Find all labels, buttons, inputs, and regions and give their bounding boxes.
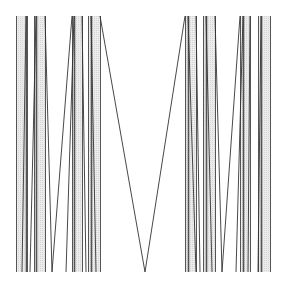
zigzag-segment bbox=[145, 16, 185, 272]
stripe-zigzag-graphic bbox=[0, 0, 284, 286]
zigzag-lines bbox=[22, 16, 261, 272]
zigzag-segment bbox=[215, 16, 222, 272]
stripe-2 bbox=[34, 16, 45, 272]
stripe-4 bbox=[88, 16, 100, 272]
zigzag-segment bbox=[45, 16, 52, 272]
zigzag-segment bbox=[100, 16, 145, 272]
abstract-stripe-figure bbox=[0, 0, 284, 286]
stripe-1 bbox=[16, 16, 26, 272]
stripe-3 bbox=[72, 16, 82, 272]
zigzag-segment bbox=[52, 16, 72, 272]
vertical-stripes bbox=[16, 16, 270, 272]
